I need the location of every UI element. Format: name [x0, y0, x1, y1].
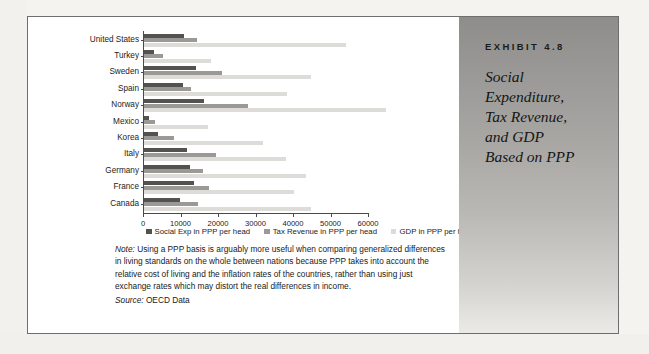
bar [144, 87, 191, 91]
x-axis-tick [218, 213, 219, 217]
bar [144, 92, 287, 96]
bar [144, 38, 197, 42]
bar [144, 153, 216, 157]
x-axis-tick [368, 213, 369, 217]
x-axis-tick [143, 213, 144, 217]
bar [144, 125, 208, 129]
bar [144, 99, 204, 103]
category-label: Korea [117, 131, 139, 145]
chart-region: United StatesTurkeySwedenSpainNorwayMexi… [28, 17, 490, 333]
bar [144, 157, 286, 161]
bar [144, 136, 174, 140]
source-text: OECD Data [144, 295, 190, 305]
scan-margin-bottom [0, 334, 649, 354]
exhibit-title: Social Expenditure, Tax Revenue, and GDP… [485, 67, 608, 167]
legend-swatch-icon [264, 229, 270, 235]
category-label: France [114, 180, 139, 194]
bar [144, 83, 183, 87]
category-label: Spain [118, 82, 139, 96]
category-label: Canada [110, 197, 139, 211]
bar [144, 148, 187, 152]
x-axis-tick [181, 213, 182, 217]
figure-source: Source: OECD Data [115, 295, 445, 305]
exhibit-figure-frame: United StatesTurkeySwedenSpainNorwayMexi… [27, 16, 619, 334]
source-label: Source: [115, 295, 144, 305]
bar [144, 202, 198, 206]
bar [144, 104, 248, 108]
x-axis-tick [256, 213, 257, 217]
legend-item: Social Exp in PPP per head [146, 227, 250, 236]
bar [144, 54, 163, 58]
x-axis-tick [293, 213, 294, 217]
exhibit-sidebar: EXHIBIT 4.8 Social Expenditure, Tax Reve… [459, 17, 618, 333]
bar [144, 59, 211, 63]
category-label: Sweden [109, 65, 139, 79]
legend-label: Social Exp in PPP per head [155, 227, 251, 236]
chart-legend: Social Exp in PPP per headTax Revenue in… [146, 227, 475, 236]
scan-margin-left [0, 0, 27, 354]
bar [144, 43, 346, 47]
legend-swatch-icon [391, 229, 397, 235]
category-label: United States [90, 33, 139, 47]
legend-item: Tax Revenue in PPP per head [264, 227, 377, 236]
x-axis-tick [331, 213, 332, 217]
bar-chart: United StatesTurkeySwedenSpainNorwayMexi… [143, 31, 443, 213]
category-label: Germany [105, 164, 139, 178]
category-label: Norway [111, 98, 139, 112]
exhibit-sidebar-inner: EXHIBIT 4.8 Social Expenditure, Tax Reve… [485, 17, 608, 333]
note-text: Using a PPP basis is arguably more usefu… [115, 244, 445, 291]
bar [144, 34, 184, 38]
category-label: Mexico [113, 115, 139, 129]
category-label: Turkey [114, 49, 139, 63]
bar [144, 198, 180, 202]
exhibit-number: EXHIBIT 4.8 [485, 41, 608, 52]
bar [144, 190, 294, 194]
bar [144, 108, 386, 112]
bar [144, 186, 209, 190]
bar [144, 66, 196, 70]
bar [144, 165, 190, 169]
bar [144, 132, 158, 136]
bar [144, 141, 263, 145]
legend-label: Tax Revenue in PPP per head [273, 227, 377, 236]
x-axis-tick-label: 0 [141, 219, 145, 228]
bar [144, 120, 155, 124]
scan-margin-right [619, 0, 649, 354]
page-root: United StatesTurkeySwedenSpainNorwayMexi… [0, 0, 649, 354]
legend-swatch-icon [146, 229, 152, 235]
bar [144, 50, 154, 54]
category-label: Italy [124, 147, 139, 161]
note-label: Note: [115, 244, 135, 254]
bar [144, 75, 311, 79]
bar [144, 207, 311, 211]
scan-margin-top [0, 0, 649, 16]
bar [144, 116, 149, 120]
figure-note: Note: Using a PPP basis is arguably more… [115, 243, 445, 293]
bar [144, 174, 306, 178]
bar [144, 169, 203, 173]
bar [144, 181, 194, 185]
bar [144, 71, 222, 75]
